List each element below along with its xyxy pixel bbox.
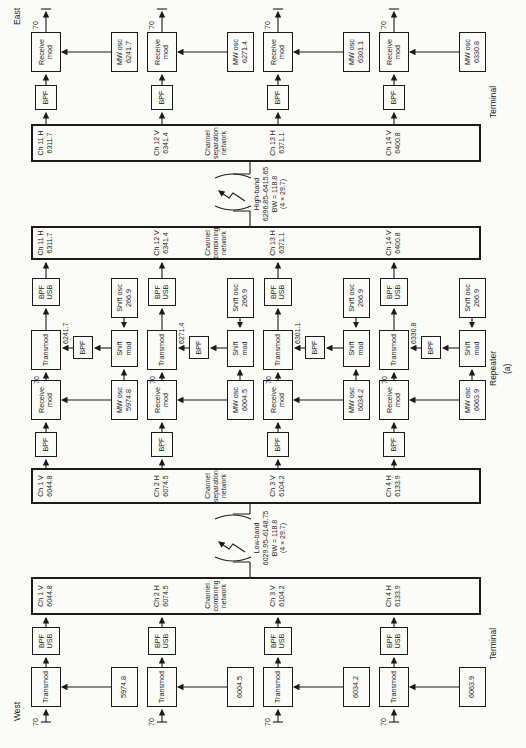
east-mw-osc-r1: MW osc6241.7 xyxy=(111,32,138,72)
shift-osc-r3: Shift osc266.9 xyxy=(343,278,370,318)
east-mw-osc-r3: MW osc6301.1 xyxy=(343,32,370,72)
repeater-receive-mod-r1: Receivemod xyxy=(31,380,61,420)
shift-bpf-r2: BPF xyxy=(189,336,209,359)
channel-label-low-comb-r4: Ch 4 H6133.9 xyxy=(385,577,402,615)
west-bpf-usb-r4: BPFUSB xyxy=(380,627,408,655)
east-bpf-r4: BPF xyxy=(383,85,405,110)
high-separation-network-label: Channelseparationnetwork xyxy=(204,124,229,162)
high-band-annotation: High-band6296.85–6415.65BW = 118.8(4 × 2… xyxy=(253,158,288,230)
wiring-layer xyxy=(0,0,526,748)
west-terminal-label: Terminal xyxy=(488,628,498,660)
west-transmod-r1: Transmod xyxy=(31,667,61,707)
high-band-antenna-icon xyxy=(215,162,251,226)
repeater-bpf-r4: BPF xyxy=(383,432,405,457)
shift-mod-r1: Shiftmod xyxy=(111,330,138,367)
high-combining-network-bus xyxy=(31,226,481,260)
channel-label-low-sep-r3: Ch 3 V6104.2 xyxy=(269,468,286,504)
east-terminal-label: Terminal xyxy=(488,86,498,118)
west-if-label-r1: 70 xyxy=(32,718,39,726)
repeater-transmod-r4: Transmod xyxy=(379,330,409,370)
east-bpf-r3: BPF xyxy=(267,85,289,110)
high-separation-network-bus xyxy=(31,124,481,162)
low-separation-network-bus xyxy=(31,468,481,504)
east-mw-osc-r4: MW osc6330.8 xyxy=(459,32,486,72)
east-if-label-r4: 70 xyxy=(380,21,387,29)
channel-label-high-comb-r1: Ch 11 H6311.7 xyxy=(37,226,54,260)
shift-bpf-r1: BPF xyxy=(73,336,93,359)
low-band-annotation: Low-band6029.95–6148.75BW = 118.8(4 × 29… xyxy=(253,500,288,576)
west-osc-r4: 6063.9 xyxy=(459,667,486,707)
repeater-if-label-r4: 70 xyxy=(381,376,388,384)
repeater-if-label-r1: 70 xyxy=(33,376,40,384)
low-combining-network-bus xyxy=(31,577,481,615)
west-transmod-r3: Transmod xyxy=(263,667,293,707)
west-transmod-r2: Transmod xyxy=(147,667,177,707)
channel-label-low-sep-r1: Ch 1 V6044.8 xyxy=(37,468,54,504)
east-receive-mod-r4: Receivemod xyxy=(379,32,409,72)
repeater-transmod-r1: Transmod xyxy=(31,330,61,370)
channel-label-high-comb-r4: Ch 14 V6400.8 xyxy=(385,226,402,260)
repeater-mw-osc-r1: MW osc5974.8 xyxy=(111,380,138,420)
channel-label-high-comb-r3: Ch 13 H6371.1 xyxy=(269,226,286,260)
shift-output-label-r1: 6241.7 xyxy=(62,323,69,344)
channel-label-high-sep-r2: Ch 12 V6341.4 xyxy=(153,124,170,162)
shift-bpf-r4: BPF xyxy=(421,336,441,359)
repeater-bpf-usb-r3: BPFUSB xyxy=(264,278,292,306)
shift-bpf-r3: BPF xyxy=(305,336,325,359)
west-bpf-usb-r1: BPFUSB xyxy=(32,627,60,655)
channel-label-low-comb-r2: Ch 2 H6074.5 xyxy=(153,577,170,615)
shift-output-label-r3: 6301.1 xyxy=(294,323,301,344)
channel-label-high-sep-r3: Ch 13 H6371.1 xyxy=(269,124,286,162)
figure-caption: (a) xyxy=(502,364,512,374)
shift-osc-r1: Shift osc266.9 xyxy=(111,278,138,318)
east-label: East xyxy=(12,8,22,25)
repeater-transmod-r2: Transmod xyxy=(147,330,177,370)
shift-output-label-r4: 6330.8 xyxy=(410,323,417,344)
channel-label-low-sep-r4: Ch 4 H6133.9 xyxy=(385,468,402,504)
block-diagram: West East Channelcombiningnetwork Channe… xyxy=(0,0,526,748)
shift-mod-r2: Shiftmod xyxy=(227,330,254,367)
repeater-mw-osc-r2: MW osc6004.5 xyxy=(227,380,254,420)
west-bpf-usb-r3: BPFUSB xyxy=(264,627,292,655)
repeater-transmod-r3: Transmod xyxy=(263,330,293,370)
repeater-bpf-usb-r1: BPFUSB xyxy=(32,278,60,306)
east-receive-mod-r2: Receivemod xyxy=(147,32,177,72)
east-if-label-r1: 70 xyxy=(32,21,39,29)
west-osc-r1: 5974.8 xyxy=(111,667,138,707)
shift-mod-r3: Shiftmod xyxy=(343,330,370,367)
east-if-label-r3: 70 xyxy=(264,21,271,29)
west-bpf-usb-r2: BPFUSB xyxy=(148,627,176,655)
east-bpf-r1: BPF xyxy=(35,85,57,110)
west-if-label-r4: 70 xyxy=(380,718,387,726)
low-separation-network-label: Channelseparationnetwork xyxy=(204,468,229,504)
west-label: West xyxy=(12,702,22,721)
repeater-receive-mod-r4: Receivemod xyxy=(379,380,409,420)
repeater-receive-mod-r2: Receivemod xyxy=(147,380,177,420)
east-receive-mod-r3: Receivemod xyxy=(263,32,293,72)
low-band-antenna-icon xyxy=(215,504,251,577)
shift-osc-r2: Shift osc266.9 xyxy=(227,278,254,318)
west-if-label-r2: 70 xyxy=(148,718,155,726)
channel-label-high-sep-r4: Ch 14 V6400.8 xyxy=(385,124,402,162)
east-bpf-r2: BPF xyxy=(151,85,173,110)
scanned-figure-page: West East Channelcombiningnetwork Channe… xyxy=(0,0,526,748)
repeater-mw-osc-r4: MW osc6063.9 xyxy=(459,380,486,420)
channel-label-low-comb-r1: Ch 1 V6044.8 xyxy=(37,577,54,615)
repeater-bpf-usb-r4: BPFUSB xyxy=(380,278,408,306)
low-combining-network-label: Channelcombiningnetwork xyxy=(204,577,229,615)
east-receive-mod-r1: Receivemod xyxy=(31,32,61,72)
west-transmod-r4: Transmod xyxy=(379,667,409,707)
channel-label-high-sep-r1: Ch 11 H6311.7 xyxy=(37,124,54,162)
repeater-bpf-r2: BPF xyxy=(151,432,173,457)
repeater-bpf-usb-r2: BPFUSB xyxy=(148,278,176,306)
repeater-bpf-r3: BPF xyxy=(267,432,289,457)
channel-label-high-comb-r2: Ch 12 V6341.4 xyxy=(153,226,170,260)
repeater-if-label-r3: 70 xyxy=(265,376,272,384)
repeater-bpf-r1: BPF xyxy=(35,432,57,457)
west-osc-r3: 6034.2 xyxy=(343,667,370,707)
shift-osc-r4: Shift osc266.9 xyxy=(459,278,486,318)
repeater-label: Repeater xyxy=(488,351,498,386)
channel-label-low-comb-r3: Ch 3 V6104.2 xyxy=(269,577,286,615)
west-osc-r2: 6004.5 xyxy=(227,667,254,707)
west-if-label-r3: 70 xyxy=(264,718,271,726)
